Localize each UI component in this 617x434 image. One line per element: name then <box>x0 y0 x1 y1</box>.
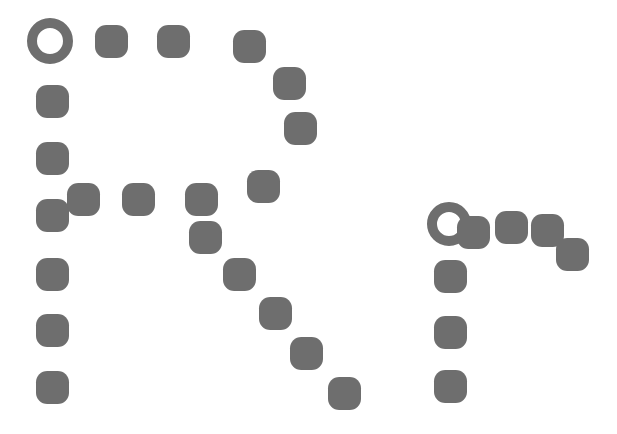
path-node-dot-marker <box>556 238 589 271</box>
path-node-dot-marker <box>36 314 69 347</box>
diagram-canvas <box>0 0 617 434</box>
path-node-dot-marker <box>273 67 306 100</box>
path-node-dot-marker <box>36 258 69 291</box>
path-node-dot-marker <box>95 25 128 58</box>
path-node-dot-marker <box>233 30 266 63</box>
path-node-dot-marker <box>122 183 155 216</box>
path-node-dot-marker <box>434 260 467 293</box>
path-node-dot-marker <box>290 337 323 370</box>
path-start-ring-marker <box>27 18 73 64</box>
path-node-dot-marker <box>223 258 256 291</box>
path-node-dot-marker <box>36 85 69 118</box>
path-node-dot-marker <box>457 216 490 249</box>
path-node-dot-marker <box>284 112 317 145</box>
path-node-dot-marker <box>67 183 100 216</box>
path-node-dot-marker <box>157 25 190 58</box>
path-node-dot-marker <box>36 142 69 175</box>
path-node-dot-marker <box>495 211 528 244</box>
path-node-dot-marker <box>259 297 292 330</box>
path-node-dot-marker <box>36 371 69 404</box>
path-node-dot-marker <box>185 183 218 216</box>
path-node-dot-marker <box>189 221 222 254</box>
path-node-dot-marker <box>434 316 467 349</box>
path-node-dot-marker <box>247 170 280 203</box>
path-node-dot-marker <box>434 370 467 403</box>
path-node-dot-marker <box>36 199 69 232</box>
path-node-dot-marker <box>328 377 361 410</box>
